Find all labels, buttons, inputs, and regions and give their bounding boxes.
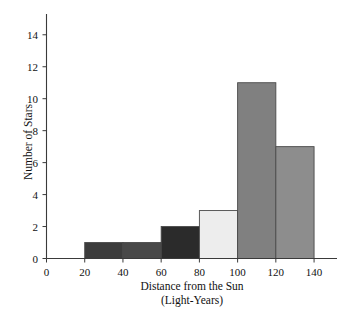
histogram-figure: 02468101214 020406080100120140 Number of… xyxy=(0,0,343,311)
histogram-bar-40-60 xyxy=(123,243,161,259)
histogram-bar-60-80 xyxy=(161,227,199,259)
x-axis-title-line1: Distance from the Sun xyxy=(140,280,243,292)
plot-canvas xyxy=(0,0,343,311)
y-axis-title: Number of Stars xyxy=(22,62,34,222)
histogram-bar-20-40 xyxy=(85,243,123,259)
x-tick-label-140: 140 xyxy=(306,267,323,278)
x-tick-label-100: 100 xyxy=(229,267,246,278)
y-tick-label-2: 2 xyxy=(14,221,38,232)
x-tick-label-120: 120 xyxy=(268,267,285,278)
x-axis-title-line2: (Light-Years) xyxy=(46,293,338,307)
histogram-bar-80-100 xyxy=(199,211,237,259)
x-tick-label-80: 80 xyxy=(194,267,205,278)
x-tick-label-60: 60 xyxy=(156,267,167,278)
y-tick-label-14: 14 xyxy=(14,29,38,40)
histogram-bar-120-140 xyxy=(276,147,314,259)
x-tick-label-40: 40 xyxy=(117,267,128,278)
x-axis-title: Distance from the Sun (Light-Years) xyxy=(46,279,338,307)
x-tick-label-0: 0 xyxy=(44,267,50,278)
y-tick-label-0: 0 xyxy=(14,253,38,264)
x-tick-label-20: 20 xyxy=(79,267,90,278)
bars-group xyxy=(85,83,314,259)
histogram-bar-100-120 xyxy=(238,83,276,259)
